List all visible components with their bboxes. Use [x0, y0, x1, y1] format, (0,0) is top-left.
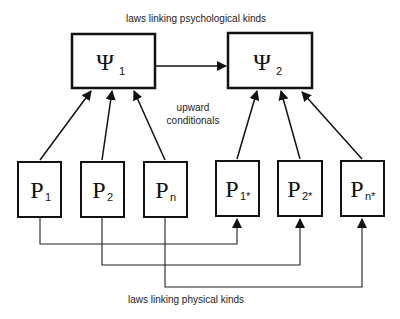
bottom-caption: laws linking physical kinds	[128, 294, 244, 305]
node-p1: P 1	[18, 162, 61, 217]
node-p2-symbol: P	[92, 177, 105, 203]
node-psi2-subscript: 2	[276, 65, 282, 77]
node-psi2: Ψ 2	[228, 33, 312, 88]
diagram-canvas: laws linking psychological kinds upward …	[0, 0, 400, 319]
node-psi1: Ψ 1	[72, 34, 155, 88]
node-pn-symbol: P	[155, 177, 168, 203]
node-p2s-subscript: 2*	[302, 190, 313, 202]
node-p1-subscript: 1	[45, 191, 51, 203]
middle-caption-line2: conditionals	[167, 115, 220, 126]
edge-p2-p2s	[102, 218, 300, 265]
top-caption: laws linking psychological kinds	[126, 13, 266, 24]
edge-p2-psi1	[102, 91, 112, 160]
edge-p1s-psi2	[237, 91, 257, 159]
node-p2-subscript: 2	[107, 191, 113, 203]
node-psi1-subscript: 1	[119, 65, 125, 77]
node-psi2-symbol: Ψ	[253, 49, 271, 75]
edge-p2s-psi2	[281, 91, 300, 159]
edge-pn-pns	[165, 218, 362, 287]
edge-p1-p1s	[40, 218, 237, 244]
node-pns-symbol: P	[350, 176, 363, 202]
node-p2: P 2	[81, 162, 124, 217]
middle-caption-line1: upward	[177, 102, 210, 113]
node-p2s: P 2*	[278, 161, 322, 216]
node-p2s-symbol: P	[287, 176, 300, 202]
node-p1s: P 1*	[216, 161, 259, 216]
edge-pns-psi2	[302, 92, 362, 159]
edge-pn-psi1	[134, 91, 165, 160]
node-p1-symbol: P	[30, 177, 43, 203]
node-p1s-symbol: P	[225, 176, 238, 202]
edge-p1-psi1	[40, 91, 91, 160]
node-psi1-symbol: Ψ	[96, 49, 114, 75]
node-pn: P n	[144, 162, 187, 217]
node-pns: P n*	[341, 161, 384, 216]
node-pns-subscript: n*	[365, 190, 376, 202]
node-pn-subscript: n	[170, 191, 176, 203]
node-p1s-subscript: 1*	[240, 190, 251, 202]
